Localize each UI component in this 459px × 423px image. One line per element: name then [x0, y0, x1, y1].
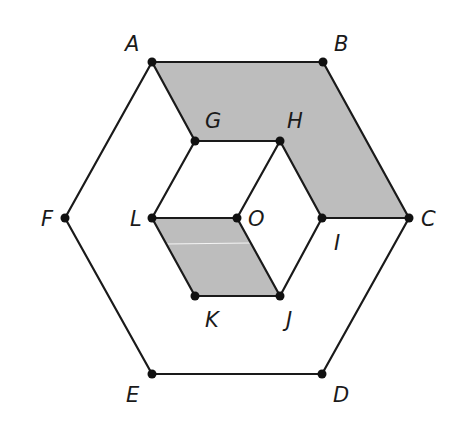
point-f: [61, 214, 70, 223]
point-e: [148, 370, 157, 379]
label-c: C: [421, 207, 436, 231]
label-e: E: [126, 383, 140, 407]
label-l: L: [130, 207, 142, 231]
point-k: [191, 292, 200, 301]
point-c: [405, 214, 414, 223]
point-h: [276, 137, 285, 146]
label-b: B: [334, 32, 348, 56]
hexagon-diagram: A B C D E F G H I J K L O: [0, 0, 459, 423]
label-h: H: [287, 109, 303, 133]
label-i: I: [334, 231, 340, 255]
point-j: [276, 292, 285, 301]
segment-lg: [152, 141, 195, 218]
segment-fa: [65, 62, 152, 218]
label-g: G: [205, 109, 221, 133]
label-f: F: [41, 207, 54, 231]
label-j: J: [282, 308, 292, 332]
point-d: [318, 370, 327, 379]
point-i: [318, 214, 327, 223]
point-l: [148, 214, 157, 223]
label-d: D: [333, 383, 349, 407]
point-g: [191, 137, 200, 146]
segment-ij: [280, 218, 322, 296]
point-o: [233, 214, 242, 223]
segment-ef: [65, 218, 152, 374]
label-o: O: [248, 207, 265, 231]
label-k: K: [205, 308, 221, 332]
point-b: [319, 58, 328, 67]
label-a: A: [123, 32, 139, 56]
point-a: [148, 58, 157, 67]
